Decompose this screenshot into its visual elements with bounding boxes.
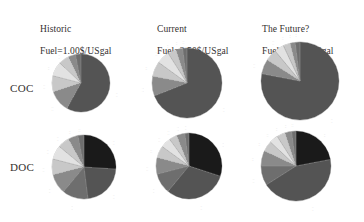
pie-slice-label: ...... [272,40,274,45]
pie-chart-matrix: Historic Fuel=1.00$/USgal Current Fuel=2… [0,0,364,222]
pie-cell-coc-future: ........................................… [261,42,339,120]
pie-doc-current [156,133,222,199]
pie-slice-label: ...... [331,118,333,123]
pie-slice-label: ...... [285,124,287,129]
pie-slice-label: ...... [79,128,81,133]
pie-slice-label: ...... [223,107,225,112]
pie-slice-label: ...... [145,66,147,71]
pie-coc-historic [52,54,110,112]
pie-slice-label: ...... [116,92,118,97]
pie-slice-dividers [52,135,116,199]
pie-slice-label: ...... [185,125,187,130]
column-title-current: Current [157,24,229,35]
pie-cell-doc-future: ........................................… [261,131,331,201]
pie-slice-label: ...... [222,142,224,147]
pie-slice-label: ...... [71,205,73,210]
pie-slice-label: ...... [200,205,202,210]
pie-slice-label: ...... [253,63,255,68]
pie-slice-label: ...... [57,136,59,141]
pie-slice-label: ...... [267,133,269,138]
pie-slice-label: ...... [292,123,294,128]
pie-slice-label: ...... [312,206,314,211]
pie-slice-label: ...... [295,33,297,38]
pie-doc-historic [52,135,116,199]
pie-slice-label: ...... [150,149,152,154]
pie-slice-dividers [261,131,331,201]
pie-slice-dividers [261,42,339,120]
pie-slice-dividers [152,48,222,118]
pie-slice-label: ...... [258,142,260,147]
pie-slice-label: ...... [142,87,144,92]
pie-cell-coc-historic: ........................................… [52,54,110,112]
pie-slice-label: ...... [156,51,158,56]
row-label-doc: DOC [10,161,34,173]
pie-slice-label: ...... [48,66,50,71]
pie-slice-dividers [156,133,222,199]
pie-doc-future [261,131,331,201]
pie-slice-label: ...... [177,126,179,131]
pie-slice-label: ...... [282,36,284,41]
pie-slice-label: ...... [113,194,115,199]
pie-slice-label: ...... [183,40,185,45]
pie-slice-label: ...... [158,137,160,142]
pie-slice-label: ...... [252,157,254,162]
pie-slice-label: ...... [43,167,45,172]
pie-slice-label: ...... [176,41,178,46]
pie-slice-label: ...... [153,188,155,193]
pie-slice-label: ...... [146,166,148,171]
pie-slice-label: ...... [43,84,45,89]
pie-cell-doc-historic: ........................................… [52,135,116,199]
pie-slice-label: ...... [253,178,255,183]
pie-cell-doc-current: ........................................… [156,133,222,199]
pie-slice-label: ...... [289,34,291,39]
pie-slice-label: ...... [69,130,71,135]
pie-slice-label: ...... [167,44,169,49]
pie-slice-label: ...... [58,54,60,59]
column-title-historic: Historic [40,24,112,35]
pie-slice-label: ...... [49,188,51,193]
pie-slice-label: ...... [113,140,115,145]
pie-coc-future [261,42,339,120]
column-title-future: The Future? [262,24,334,35]
pie-slice-label: ...... [47,149,49,154]
pie-slice-label: ...... [324,133,326,138]
pie-slice-label: ...... [262,49,264,54]
pie-slice-dividers [52,54,110,112]
pie-slice-label: ...... [276,127,278,132]
pie-slice-label: ...... [52,106,54,111]
pie-cell-coc-current: ........................................… [152,48,222,118]
pie-slice-label: ...... [76,47,78,52]
pie-slice-label: ...... [68,49,70,54]
pie-slice-label: ...... [168,130,170,135]
pie-coc-current [152,48,222,118]
row-label-coc: COC [10,82,34,94]
